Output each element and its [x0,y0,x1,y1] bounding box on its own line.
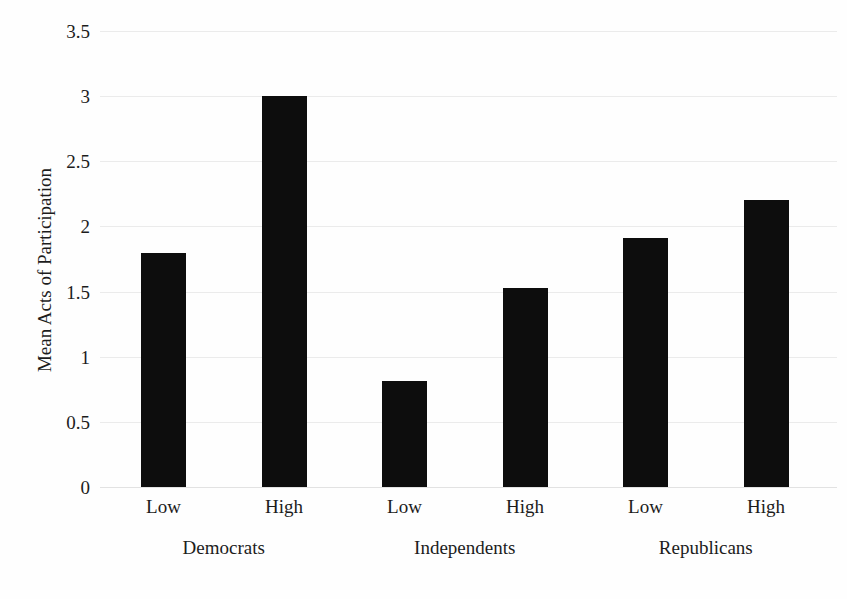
gridline [100,31,837,32]
y-axis-tick-label: 0 [50,478,90,497]
y-axis-tick-label: 2 [50,217,90,236]
y-axis-tick-label: 0.5 [50,412,90,431]
x-axis-sub-label: Low [628,496,663,518]
gridline [100,161,837,162]
x-axis-group-label: Independents [414,537,515,559]
plot-area [100,31,837,487]
gridline [100,226,837,227]
gridline [100,422,837,423]
x-axis-group-label: Republicans [659,537,753,559]
x-axis-sub-label: Low [387,496,422,518]
x-axis-sub-label: Low [146,496,181,518]
bar [503,288,548,487]
y-axis-tick-label: 3.5 [50,22,90,41]
y-axis-tick-label: 1 [50,347,90,366]
x-axis-sub-labels: LowHighLowHighLowHigh [100,496,837,526]
gridline [100,96,837,97]
x-axis-group-labels: DemocratsIndependentsRepublicans [100,537,837,567]
x-axis-group-label: Democrats [183,537,265,559]
gridline [100,357,837,358]
x-axis-sub-label: High [506,496,544,518]
gridline [100,487,837,488]
bar [382,381,427,487]
bar [744,200,789,487]
x-axis-sub-label: High [747,496,785,518]
y-axis-tick-label: 1.5 [50,282,90,301]
bar [623,238,668,487]
y-axis-tick-labels: 00.511.522.533.5 [42,31,90,487]
bar [262,96,307,487]
x-axis-sub-label: High [265,496,303,518]
y-axis-tick-label: 2.5 [50,152,90,171]
gridline [100,292,837,293]
bar [141,253,186,488]
bar-chart: Mean Acts of Participation 00.511.522.53… [0,0,847,599]
y-axis-tick-label: 3 [50,87,90,106]
